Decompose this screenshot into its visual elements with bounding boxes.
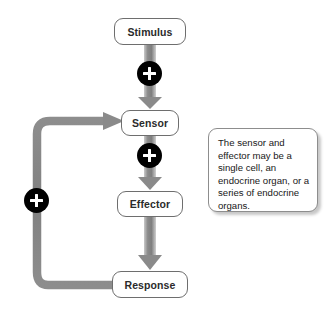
node-response-label: Response — [125, 279, 176, 291]
node-effector-label: Effector — [130, 198, 170, 210]
callout-note-text: The sensor and effector may be a single … — [218, 137, 309, 211]
node-stimulus: Stimulus — [114, 18, 186, 45]
node-response: Response — [112, 271, 188, 298]
node-sensor: Sensor — [121, 110, 179, 136]
feedback-loop-diagram: Stimulus Sensor Effector Response The se… — [0, 0, 335, 317]
node-stimulus-label: Stimulus — [127, 26, 172, 38]
callout-note: The sensor and effector may be a single … — [208, 128, 318, 212]
plus-sign-icon-stimulus-sensor — [137, 61, 162, 86]
node-sensor-label: Sensor — [132, 117, 168, 129]
plus-sign-icon-feedback — [24, 188, 49, 213]
edge-response-feedback-to-sensor — [37, 112, 124, 285]
node-effector: Effector — [117, 191, 183, 217]
edge-effector-to-response — [138, 217, 162, 270]
plus-sign-icon-sensor-effector — [137, 143, 162, 168]
